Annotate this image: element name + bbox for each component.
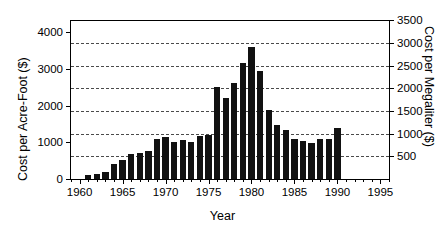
gridline: [71, 66, 389, 67]
x-axis-tick: [80, 179, 81, 184]
y-axis-right-tick-label: 1000: [397, 128, 423, 140]
plot-inner: [71, 21, 389, 179]
x-axis-minor-tick: [226, 179, 227, 182]
x-axis-tick: [380, 179, 381, 184]
y-axis-left-tick-label: 1000: [37, 136, 63, 148]
y-axis-right-tick: [389, 134, 394, 135]
x-axis-minor-tick: [243, 179, 244, 182]
bar: [240, 63, 246, 179]
y-axis-left-tick: [66, 32, 71, 33]
x-axis-minor-tick: [329, 179, 330, 182]
x-axis-minor-tick: [140, 179, 141, 182]
x-axis-minor-tick: [148, 179, 149, 182]
bar: [137, 153, 143, 179]
bar: [162, 137, 168, 179]
x-axis-minor-tick: [200, 179, 201, 182]
x-axis-tick: [294, 179, 295, 184]
bar: [111, 164, 117, 179]
bar: [248, 47, 254, 179]
x-axis-minor-tick: [88, 179, 89, 182]
x-axis-minor-tick: [71, 179, 72, 182]
x-axis-tick: [209, 179, 210, 184]
y-axis-right-tick-label: 2000: [397, 82, 423, 94]
x-axis-minor-tick: [277, 179, 278, 182]
bar: [274, 125, 280, 179]
x-axis-minor-tick: [131, 179, 132, 182]
x-axis-minor-tick: [312, 179, 313, 182]
bar: [102, 172, 108, 179]
x-axis-minor-tick: [183, 179, 184, 182]
x-axis-tick: [123, 179, 124, 184]
y-axis-left-tick: [66, 142, 71, 143]
x-axis-minor-tick: [191, 179, 192, 182]
bar: [291, 139, 297, 179]
bar: [119, 160, 125, 179]
x-axis-minor-tick: [157, 179, 158, 182]
bar: [154, 139, 160, 179]
y-axis-right-tick-label: 3500: [397, 14, 423, 26]
y-axis-left-title: Cost per Acre-Foot ($): [16, 57, 30, 181]
gridline: [71, 156, 389, 157]
x-axis-tick-label: 1975: [196, 186, 222, 198]
x-axis-tick-label: 1995: [368, 186, 394, 198]
gridline: [71, 88, 389, 89]
y-axis-right-tick: [389, 156, 394, 157]
chart-root: Cost per Acre-Foot ($) Cost per Megalite…: [0, 0, 445, 236]
x-axis-minor-tick: [389, 179, 390, 182]
bar: [317, 139, 323, 179]
y-axis-left-tick-label: 0: [57, 173, 63, 185]
x-axis-minor-tick: [174, 179, 175, 182]
bar: [171, 142, 177, 179]
bar: [334, 128, 340, 179]
x-axis-tick: [251, 179, 252, 184]
x-axis-minor-tick: [303, 179, 304, 182]
x-axis-tick-label: 1960: [67, 186, 93, 198]
y-axis-right-tick: [389, 20, 394, 21]
y-axis-right-tick-label: 3000: [397, 37, 423, 49]
bar: [257, 71, 263, 179]
x-axis-minor-tick: [355, 179, 356, 182]
gridline: [71, 43, 389, 44]
x-axis-tick: [337, 179, 338, 184]
bar: [188, 142, 194, 179]
y-axis-left-tick-label: 2000: [37, 100, 63, 112]
x-axis-title: Year: [0, 209, 445, 223]
x-axis-tick-label: 1965: [110, 186, 136, 198]
y-axis-right-tick: [389, 111, 394, 112]
bar: [145, 151, 151, 179]
x-axis-tick-label: 1970: [153, 186, 179, 198]
bar: [231, 83, 237, 179]
bar: [197, 136, 203, 179]
x-axis-minor-tick: [286, 179, 287, 182]
x-axis-tick-label: 1985: [282, 186, 308, 198]
x-axis-minor-tick: [320, 179, 321, 182]
bar: [214, 87, 220, 179]
bar: [326, 139, 332, 179]
x-axis-minor-tick: [217, 179, 218, 182]
x-axis-minor-tick: [346, 179, 347, 182]
bar: [300, 141, 306, 179]
bar: [180, 140, 186, 179]
y-axis-left-tick: [66, 106, 71, 107]
x-axis-minor-tick: [97, 179, 98, 182]
gridline: [71, 111, 389, 112]
y-axis-left-tick-label: 4000: [37, 26, 63, 38]
bar: [266, 110, 272, 179]
bar: [283, 130, 289, 179]
gridline: [71, 134, 389, 135]
x-axis-minor-tick: [363, 179, 364, 182]
y-axis-right-tick-label: 1500: [397, 105, 423, 117]
y-axis-right-tick-label: 2500: [397, 60, 423, 72]
x-axis-tick-label: 1980: [239, 186, 265, 198]
x-axis-tick: [166, 179, 167, 184]
bar: [128, 154, 134, 179]
y-axis-right-tick-label: 500: [397, 150, 416, 162]
x-axis-minor-tick: [234, 179, 235, 182]
x-axis-minor-tick: [372, 179, 373, 182]
x-axis-minor-tick: [105, 179, 106, 182]
bar: [223, 98, 229, 179]
x-axis-tick-label: 1990: [325, 186, 351, 198]
x-axis-minor-tick: [260, 179, 261, 182]
y-axis-right-tick: [389, 66, 394, 67]
y-axis-right-tick: [389, 43, 394, 44]
